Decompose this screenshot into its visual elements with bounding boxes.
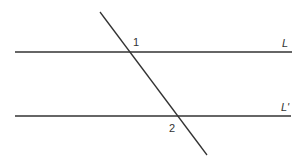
transversal-line bbox=[100, 12, 207, 155]
parallel-lines-diagram: 1 2 L L' bbox=[0, 0, 307, 165]
angle-1-label: 1 bbox=[133, 36, 139, 48]
line-L-prime-label: L' bbox=[281, 101, 290, 113]
angle-2-label: 2 bbox=[169, 122, 175, 134]
line-L-label: L bbox=[282, 37, 288, 49]
